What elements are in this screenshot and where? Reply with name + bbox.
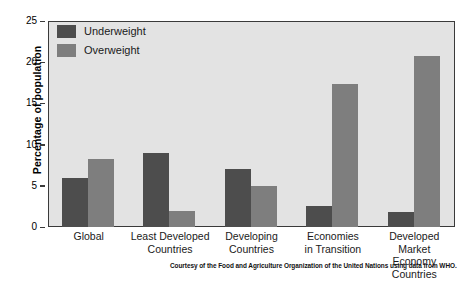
y-axis-tick-label: 0	[31, 220, 37, 233]
x-axis-label-line: Countries	[129, 243, 210, 256]
x-axis-label-line: Economies	[292, 230, 373, 243]
bar-overweight	[332, 84, 358, 227]
bar-chart-figure: Percentage of population 0510152025 Unde…	[0, 0, 463, 281]
x-axis-label: Least DevelopedCountries	[129, 230, 210, 255]
y-axis-tick-mark	[40, 227, 45, 229]
bar-underweight	[225, 169, 251, 227]
chart-caption: Courtesy of the Food and Agriculture Org…	[170, 262, 457, 269]
x-axis-label: Economiesin Transition	[292, 230, 373, 255]
bar-overweight	[169, 211, 195, 227]
y-axis-tick-label: 15	[26, 96, 37, 109]
bar-underweight	[143, 153, 169, 227]
x-axis-label: Developed MarketEconomy Countries	[374, 230, 455, 280]
x-axis-label-line: Developing	[211, 230, 292, 243]
x-axis-label: Global	[48, 230, 129, 243]
bar-group	[374, 21, 455, 227]
bar-group	[292, 21, 373, 227]
y-axis-tick-label: 5	[31, 179, 37, 192]
bar-underweight	[62, 178, 88, 227]
bar-underweight	[306, 206, 332, 227]
y-axis-tick-mark	[40, 144, 45, 146]
chart-legend: UnderweightOverweight	[57, 24, 146, 62]
x-axis-label-line: in Transition	[292, 243, 373, 256]
legend-swatch-icon	[57, 44, 76, 57]
bar-group	[211, 21, 292, 227]
bar-overweight	[414, 56, 440, 227]
y-axis-tick-mark	[40, 103, 45, 105]
bar-overweight	[88, 159, 114, 227]
x-axis-label: DevelopingCountries	[211, 230, 292, 255]
legend-entry: Overweight	[57, 43, 146, 58]
bar-underweight	[388, 212, 414, 227]
x-axis-label-line: Global	[48, 230, 129, 243]
x-axis-label-line: Least Developed	[129, 230, 210, 243]
y-axis-tick-mark	[40, 21, 45, 23]
y-axis-tick-label: 25	[26, 14, 37, 27]
legend-entry: Underweight	[57, 24, 146, 39]
y-axis-tick-mark	[40, 185, 45, 187]
y-axis-tick-label: 20	[26, 55, 37, 68]
x-axis-label-line: Countries	[211, 243, 292, 256]
x-axis-labels: GlobalLeast DevelopedCountriesDeveloping…	[48, 230, 455, 260]
legend-label: Underweight	[84, 25, 146, 38]
bar-overweight	[251, 186, 277, 227]
y-axis-tick-label: 10	[26, 138, 37, 151]
legend-label: Overweight	[84, 44, 140, 57]
legend-swatch-icon	[57, 25, 76, 38]
x-axis-label-line: Developed Market	[374, 230, 455, 255]
y-axis-tick-mark	[40, 62, 45, 64]
y-axis-title: Percentage of population	[31, 25, 43, 195]
